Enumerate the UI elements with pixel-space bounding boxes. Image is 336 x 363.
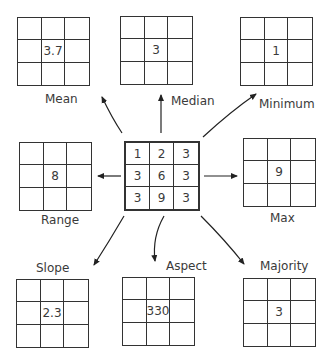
minimum-value: 1 bbox=[265, 40, 289, 62]
input-cell: 3 bbox=[126, 187, 150, 209]
max-value: 9 bbox=[268, 161, 292, 183]
input-cell: 2 bbox=[150, 143, 174, 165]
mean-value: 3.7 bbox=[42, 40, 66, 62]
mean-label: Mean bbox=[45, 92, 78, 106]
aspect-label: Aspect bbox=[166, 259, 207, 273]
range-grid: 8 bbox=[19, 142, 92, 211]
range-label: Range bbox=[41, 213, 79, 227]
minimum-label: Minimum bbox=[259, 97, 315, 111]
input-cell: 9 bbox=[150, 187, 174, 209]
arrow-to-slope bbox=[94, 216, 124, 265]
median-label: Median bbox=[171, 94, 215, 108]
input-grid: 1 2 3 3 6 3 3 9 3 bbox=[124, 141, 200, 211]
max-grid: 9 bbox=[243, 138, 316, 207]
arrow-to-majority bbox=[201, 216, 244, 264]
input-cell: 3 bbox=[174, 143, 198, 165]
input-cell: 6 bbox=[150, 165, 174, 187]
range-value: 8 bbox=[44, 165, 68, 187]
minimum-grid: 1 bbox=[240, 17, 313, 86]
arrow-to-aspect bbox=[154, 216, 164, 261]
median-grid: 3 bbox=[120, 16, 193, 85]
majority-grid: 3 bbox=[243, 278, 316, 347]
aspect-grid: 330 bbox=[122, 277, 195, 346]
input-cell: 3 bbox=[174, 187, 198, 209]
aspect-value: 330 bbox=[147, 300, 171, 322]
slope-label: Slope bbox=[36, 261, 69, 275]
input-cell: 3 bbox=[126, 165, 150, 187]
majority-label: Majority bbox=[260, 259, 308, 273]
majority-value: 3 bbox=[268, 301, 292, 323]
input-cell: 1 bbox=[126, 143, 150, 165]
slope-grid: 2.3 bbox=[16, 279, 89, 348]
slope-value: 2.3 bbox=[41, 302, 65, 324]
max-label: Max bbox=[270, 211, 295, 225]
input-cell: 3 bbox=[174, 165, 198, 187]
median-value: 3 bbox=[145, 39, 169, 61]
arrow-to-mean bbox=[102, 97, 122, 133]
mean-grid: 3.7 bbox=[17, 17, 90, 86]
